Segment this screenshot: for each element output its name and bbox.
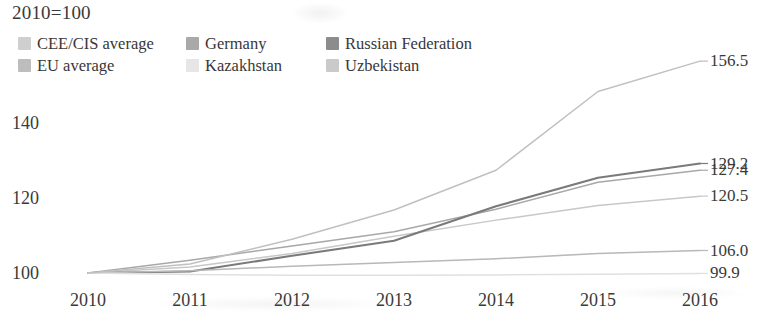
chart-legend: CEE/CIS average Germany Russian Federati…	[18, 34, 618, 78]
legend-swatch-kazakhstan	[186, 59, 199, 72]
series-line-russian-federation	[88, 164, 700, 274]
legend-swatch-russian-federation	[326, 37, 339, 50]
legend-row-2: EU average Kazakhstan Uzbekistan	[18, 56, 618, 78]
end-label-eu-average: 106.0	[710, 241, 748, 261]
x-axis-tick-2016: 2016	[682, 290, 718, 311]
x-axis-tick-2012: 2012	[274, 290, 310, 311]
legend-label-eu-average: EU average	[37, 56, 114, 75]
series-line-uzbekistan	[88, 61, 700, 273]
x-axis-tick-2011: 2011	[172, 290, 207, 311]
end-label-cee-cis-average: 120.5	[710, 186, 748, 206]
legend-swatch-eu-average	[18, 59, 31, 72]
scan-artifact-bottom-right	[600, 286, 750, 300]
legend-label-uzbekistan: Uzbekistan	[345, 56, 419, 75]
series-line-kazakhstan	[88, 273, 700, 275]
legend-swatch-uzbekistan	[326, 59, 339, 72]
legend-row-1: CEE/CIS average Germany Russian Federati…	[18, 34, 618, 56]
series-line-germany	[88, 170, 700, 273]
end-label-kazakhstan: 99.9	[710, 263, 740, 283]
x-axis-tick-2014: 2014	[478, 290, 514, 311]
legend-label-cee-cis-average: CEE/CIS average	[37, 34, 154, 53]
legend-item-russian-federation: Russian Federation	[326, 34, 472, 53]
legend-label-russian-federation: Russian Federation	[345, 34, 472, 53]
end-label-uzbekistan: 156.5	[710, 51, 748, 71]
y-axis-tick-120: 120	[12, 188, 39, 209]
series-line-cee-cis-average	[88, 196, 700, 273]
chart-title: 2010=100	[12, 2, 91, 24]
legend-item-germany: Germany	[186, 34, 326, 53]
legend-item-kazakhstan: Kazakhstan	[186, 56, 326, 75]
x-axis-tick-2013: 2013	[376, 290, 412, 311]
legend-label-germany: Germany	[205, 34, 266, 53]
end-label-russian-federation: 129.2	[710, 154, 748, 174]
legend-swatch-cee-cis-average	[18, 37, 31, 50]
y-axis-tick-140: 140	[12, 113, 39, 134]
x-axis-tick-2015: 2015	[580, 290, 616, 311]
legend-label-kazakhstan: Kazakhstan	[205, 56, 282, 75]
series-line-eu-average	[88, 251, 700, 274]
scan-artifact-top	[290, 2, 350, 24]
legend-item-cee-cis-average: CEE/CIS average	[18, 34, 186, 53]
legend-swatch-germany	[186, 37, 199, 50]
y-axis-tick-100: 100	[12, 263, 39, 284]
legend-item-uzbekistan: Uzbekistan	[326, 56, 419, 75]
legend-item-eu-average: EU average	[18, 56, 186, 75]
x-axis-tick-2010: 2010	[70, 290, 106, 311]
